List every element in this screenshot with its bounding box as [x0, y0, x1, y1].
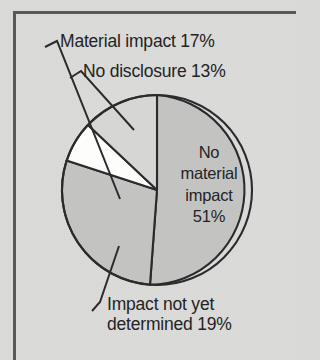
- pie-label-impact-not-yet-line1: Impact not yet: [107, 295, 232, 315]
- pie-label-no-material-line3: impact: [174, 185, 244, 206]
- pie-label-no-material-impact: No material impact 51%: [174, 142, 244, 228]
- pie-label-no-material-line1: No: [174, 142, 244, 163]
- pie-label-impact-not-yet-determined: Impact not yet determined 19%: [107, 295, 232, 334]
- pie-label-impact-not-yet-line2: determined 19%: [107, 315, 232, 335]
- pie-label-no-material-line4: 51%: [174, 206, 244, 227]
- pie-label-material-impact: Material impact 17%: [60, 32, 215, 52]
- pie-label-no-material-line2: material: [174, 163, 244, 184]
- pie-label-no-disclosure: No disclosure 13%: [83, 62, 226, 82]
